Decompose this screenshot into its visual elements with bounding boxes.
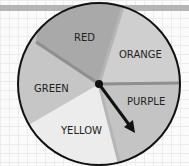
label-purple: PURPLE bbox=[127, 96, 165, 107]
spinner-pivot bbox=[95, 80, 103, 88]
label-orange: ORANGE bbox=[119, 49, 162, 60]
label-red: RED bbox=[74, 32, 95, 43]
label-yellow: YELLOW bbox=[60, 125, 102, 136]
spinner: RED ORANGE PURPLE YELLOW GREEN bbox=[0, 0, 189, 166]
label-green: GREEN bbox=[34, 83, 69, 94]
